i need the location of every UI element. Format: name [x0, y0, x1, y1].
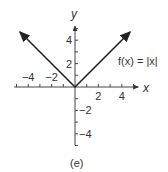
- y-tick-label: 2: [66, 58, 72, 70]
- function-label: f(x) = |x|: [118, 55, 158, 67]
- x-tick-label: 2: [95, 90, 101, 102]
- x-axis-label: x: [142, 81, 150, 95]
- y-tick-label: −2: [79, 104, 92, 116]
- chart: −4−22442−2−4 x y f(x) = |x| (e): [0, 0, 168, 172]
- y-tick-label: 4: [66, 34, 72, 46]
- y-axis-label: y: [70, 7, 78, 21]
- x-tick-label: 4: [119, 90, 125, 102]
- y-tick-label: −4: [79, 128, 92, 140]
- caption: (e): [70, 157, 83, 169]
- x-tick-label: −2: [45, 71, 58, 83]
- x-tick-label: −4: [22, 71, 35, 83]
